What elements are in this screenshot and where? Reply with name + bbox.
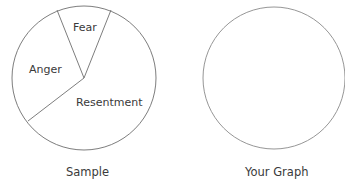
your-graph-circle	[203, 7, 345, 149]
sample-caption: Sample	[66, 165, 109, 179]
your-graph-caption: Your Graph	[245, 165, 308, 179]
slice-label-anger: Anger	[29, 63, 62, 76]
slice-label-fear: Fear	[73, 21, 97, 34]
sample-pie-chart: Fear Anger Resentment	[12, 6, 156, 150]
slice-label-resentment: Resentment	[76, 96, 143, 109]
charts-canvas: Fear Anger Resentment	[0, 0, 345, 191]
